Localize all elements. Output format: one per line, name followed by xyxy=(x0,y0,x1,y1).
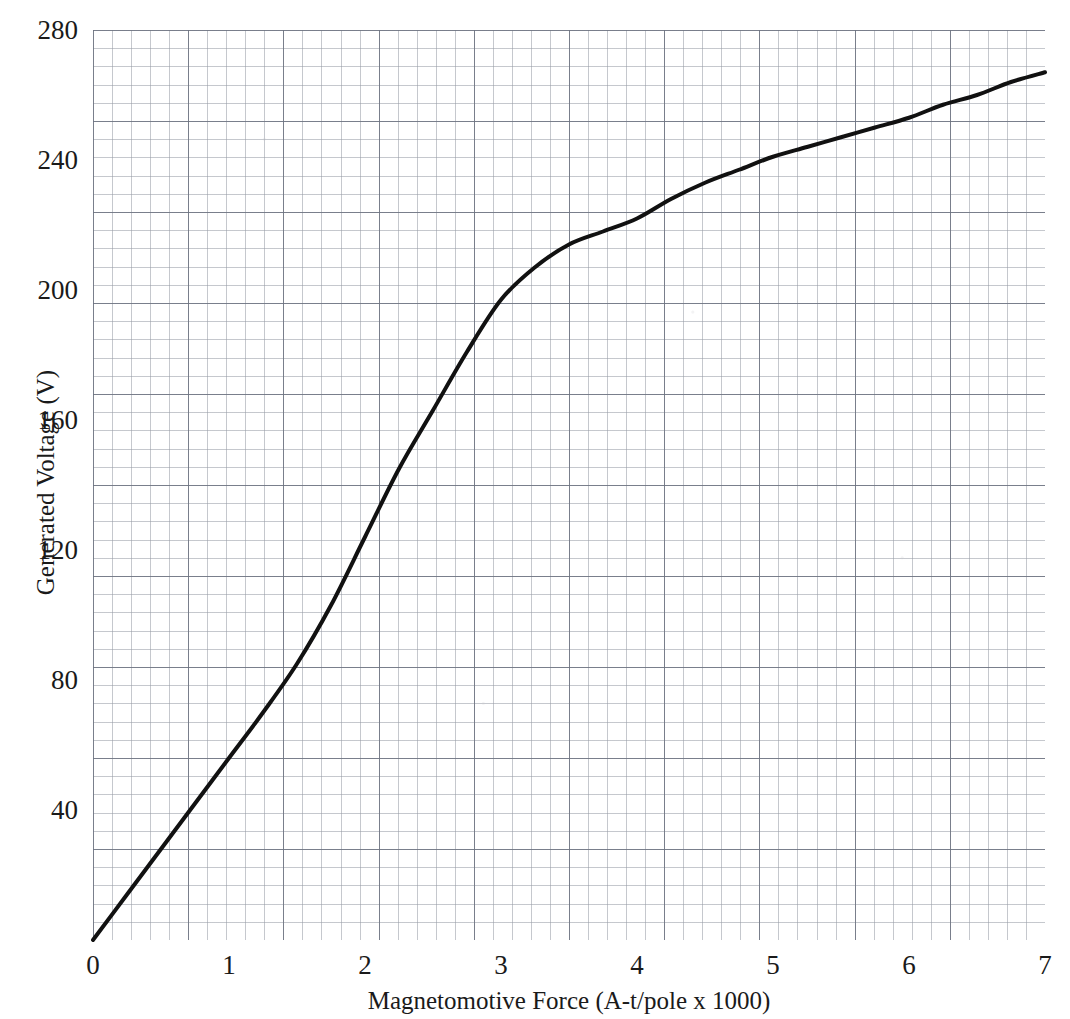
y-tick-label: 280 xyxy=(0,17,78,44)
x-tick-label: 3 xyxy=(471,952,531,979)
x-axis-label: Magnetomotive Force (A-t/pole x 1000) xyxy=(93,988,1045,1013)
x-tick-label: 5 xyxy=(743,952,803,979)
x-tick-label: 0 xyxy=(63,952,123,979)
x-tick-label: 4 xyxy=(607,952,667,979)
magnetization-curve-figure: 4080120160200240280 01234567 Magnetomoti… xyxy=(0,0,1070,1019)
x-tick-label: 6 xyxy=(879,952,939,979)
y-axis-label: Generated Voltage (V) xyxy=(33,233,58,733)
x-tick-label: 2 xyxy=(335,952,395,979)
y-axis-ticks: 4080120160200240280 xyxy=(0,0,1070,1019)
x-tick-label: 1 xyxy=(199,952,259,979)
y-tick-label: 40 xyxy=(0,797,78,824)
y-tick-label: 240 xyxy=(0,147,78,174)
x-tick-label: 7 xyxy=(1015,952,1070,979)
